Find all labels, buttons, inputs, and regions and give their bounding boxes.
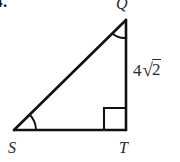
- right-angle-marker-t: [104, 108, 126, 130]
- vertex-label-t: T: [119, 140, 128, 156]
- angle-arc-s: [30, 115, 37, 131]
- side-length-label-qt: 4√2: [133, 60, 161, 81]
- triangle-drawing: [0, 0, 180, 162]
- triangle-side-sq: [14, 20, 126, 130]
- radical-expression: √2: [142, 60, 162, 81]
- side-length-coefficient: 4: [133, 61, 142, 81]
- geometry-figure: 4. Q S T 4√2: [0, 0, 180, 162]
- vertex-label-q: Q: [116, 0, 128, 12]
- vertex-label-s: S: [8, 140, 16, 156]
- angle-arc-q: [113, 34, 127, 39]
- radicand-value: 2: [152, 59, 162, 80]
